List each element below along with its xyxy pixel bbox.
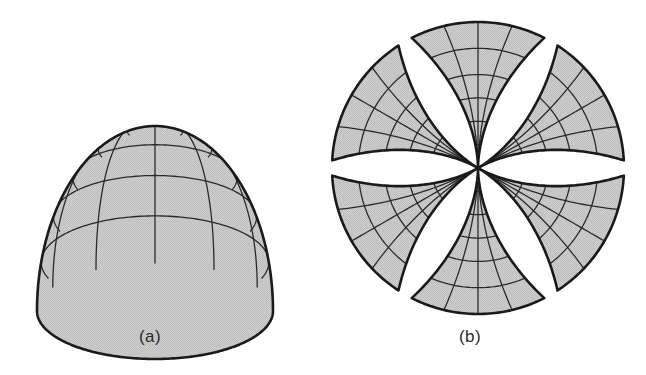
- figure-svg-canvas: [0, 0, 646, 375]
- panel-b-gore-rosette: [332, 22, 624, 314]
- gore-petal-set: [332, 22, 624, 314]
- panel-a-hemisphere: [37, 120, 273, 359]
- panel-b-caption: (b): [430, 327, 510, 347]
- panel-a-caption: (a): [110, 327, 190, 347]
- figure-container: (a) (b): [0, 0, 646, 375]
